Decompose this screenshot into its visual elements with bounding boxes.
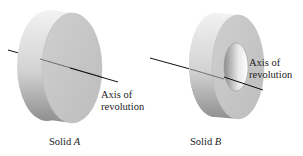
caption-letter: A [74, 136, 80, 147]
solid-b-axis-back [150, 58, 190, 69]
solid-a-caption: Solid A [49, 136, 80, 148]
axis-label-line1: Axis of [249, 57, 292, 69]
axis-label-line1: Axis of [101, 89, 144, 101]
axis-label-line2: revolution [101, 101, 144, 113]
caption-prefix: Solid [49, 136, 71, 147]
axis-label-line2: revolution [249, 69, 292, 81]
solid-b-washer [150, 13, 264, 119]
caption-prefix: Solid [190, 136, 212, 147]
caption-letter: B [215, 136, 221, 147]
solid-b-axis-label: Axis of revolution [249, 57, 292, 81]
solid-b-caption: Solid B [190, 136, 221, 148]
solid-a-axis-label: Axis of revolution [101, 89, 144, 113]
